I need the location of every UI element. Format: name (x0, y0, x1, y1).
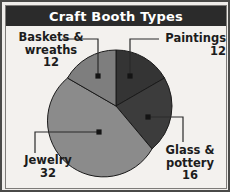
slice-value-jewelry: 32 (14, 167, 82, 180)
slice-label-paintings-line1: Paintings (165, 31, 226, 45)
slice-label-glass-and-pottery: Glass & pottery 16 (154, 144, 226, 182)
slice-label-jewelry: Jewelry 32 (14, 154, 82, 179)
slice-value-baskets: 12 (9, 56, 93, 69)
slice-label-glass-line1: Glass & (166, 143, 215, 157)
slice-label-baskets-line1: Baskets & (19, 30, 84, 44)
slice-label-paintings: Paintings 12 (152, 32, 226, 57)
slice-value-paintings: 12 (152, 45, 226, 58)
slice-label-baskets-and-wreaths: Baskets & wreaths 12 (9, 31, 93, 69)
chart-frame: Craft Booth Types (0, 0, 230, 192)
slice-value-glass: 16 (154, 169, 226, 182)
slice-label-jewelry-line1: Jewelry (24, 153, 72, 167)
